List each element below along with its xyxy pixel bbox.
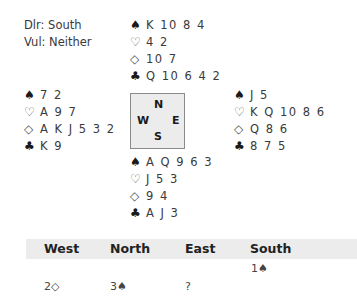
north-hearts: 4 2 [146, 35, 169, 49]
east-diamonds: Q 8 6 [250, 122, 289, 136]
club-icon: ♣ [24, 138, 40, 155]
bidding-header-south: South [250, 241, 291, 256]
spade-icon: ♠ [130, 17, 146, 34]
heart-icon: ♡ [130, 171, 146, 188]
south-hand: ♠A Q 9 6 3 ♡J 5 3 ◇9 4 ♣A J 3 [130, 154, 213, 222]
compass-south: S [154, 130, 162, 143]
west-hand: ♠7 2 ♡A 9 7 ◇A K J 5 3 2 ♣K 9 [24, 87, 116, 155]
diamond-icon: ◇ [130, 188, 146, 205]
north-diamonds: 10 7 [146, 52, 178, 66]
spade-icon: ♠ [234, 87, 250, 104]
south-spades: A Q 9 6 3 [146, 155, 213, 169]
heart-icon: ♡ [24, 104, 40, 121]
north-hand: ♠K 10 8 4 ♡4 2 ◇10 7 ♣Q 10 6 4 2 [130, 17, 221, 85]
diamond-icon: ◇ [234, 121, 250, 138]
compass-box: N W E S [130, 93, 185, 149]
dealer-label: Dlr: South [24, 17, 82, 34]
east-hearts: K Q 10 8 6 [250, 105, 325, 119]
south-hearts: J 5 3 [146, 172, 179, 186]
bid-north-1: 3♠ [110, 280, 127, 293]
club-icon: ♣ [130, 205, 146, 222]
club-icon: ♣ [234, 138, 250, 155]
compass-north: N [154, 98, 163, 111]
diamond-icon: ◇ [24, 121, 40, 138]
vulnerability-label: Vul: Neither [24, 34, 92, 51]
west-diamonds: A K J 5 3 2 [40, 122, 116, 136]
bid-south-1: 1♠ [251, 262, 268, 275]
bid-east-1: ? [185, 280, 191, 293]
spade-icon: ♠ [130, 154, 146, 171]
east-clubs: 8 7 5 [250, 139, 287, 153]
heart-icon: ♡ [234, 104, 250, 121]
bidding-header-west: West [44, 241, 79, 256]
west-clubs: K 9 [40, 139, 63, 153]
east-hand: ♠J 5 ♡K Q 10 8 6 ◇Q 8 6 ♣8 7 5 [234, 87, 325, 155]
north-spades: K 10 8 4 [146, 18, 206, 32]
spade-icon: ♠ [24, 87, 40, 104]
heart-icon: ♡ [130, 34, 146, 51]
east-spades: J 5 [250, 88, 269, 102]
south-clubs: A J 3 [146, 206, 179, 220]
west-spades: 7 2 [40, 88, 63, 102]
diamond-icon: ◇ [130, 51, 146, 68]
south-diamonds: 9 4 [146, 189, 169, 203]
compass-west: W [137, 114, 149, 127]
bidding-header-east: East [185, 241, 215, 256]
compass-east: E [172, 114, 180, 127]
bidding-header-north: North [110, 241, 150, 256]
north-clubs: Q 10 6 4 2 [146, 69, 221, 83]
west-hearts: A 9 7 [40, 105, 77, 119]
club-icon: ♣ [130, 68, 146, 85]
bid-west-1: 2◇ [44, 280, 59, 293]
